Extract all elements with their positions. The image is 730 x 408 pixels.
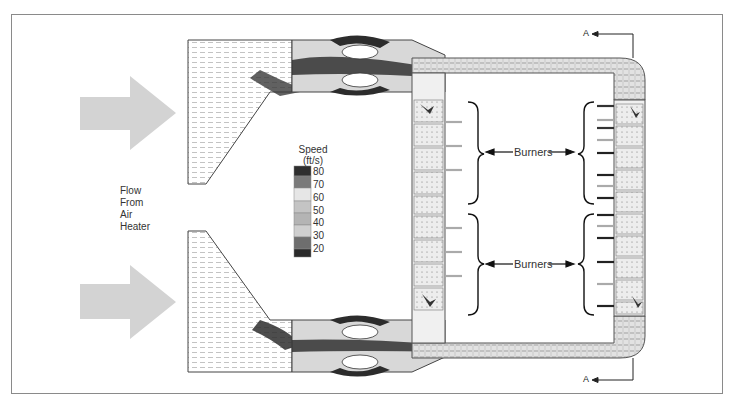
brace-left-upper xyxy=(468,102,484,204)
burners-label-lower: Burners xyxy=(514,258,553,270)
legend-tick-30: 30 xyxy=(313,230,324,241)
legend-tick-80: 80 xyxy=(313,166,324,177)
legend-tick-20: 20 xyxy=(313,243,324,254)
legend-tick-60: 60 xyxy=(313,192,324,203)
section-label-bottom: A xyxy=(583,374,589,384)
brace-right-upper xyxy=(578,102,594,204)
left-burner-wall xyxy=(412,73,445,343)
inlet-label-line-2: From xyxy=(120,197,150,209)
inlet-label-line-3: Air xyxy=(120,209,150,221)
inlet-flow-label: Flow From Air Heater xyxy=(120,185,150,233)
section-label-top: A xyxy=(583,28,589,38)
brace-right-lower xyxy=(578,214,594,315)
inlet-label-line-1: Flow xyxy=(120,185,150,197)
top-crossover-duct xyxy=(412,58,645,100)
inlet-label-line-4: Heater xyxy=(120,221,150,233)
inlet-arrow-bottom xyxy=(80,265,176,339)
speed-legend-bar xyxy=(294,166,311,257)
legend-title-units: (ft/s) xyxy=(283,155,343,166)
legend-tick-40: 40 xyxy=(313,217,324,228)
legend-title-speed: Speed xyxy=(283,144,343,155)
legend-tick-50: 50 xyxy=(313,205,324,216)
section-marker-bottom xyxy=(592,358,633,383)
windbox-flow-diagram xyxy=(0,0,730,408)
brace-left-lower xyxy=(468,214,484,315)
section-marker-top xyxy=(592,32,633,59)
legend-tick-70: 70 xyxy=(313,179,324,190)
burners-label-upper: Burners xyxy=(514,146,553,158)
bottom-crossover-duct xyxy=(412,316,645,358)
right-burner-jets xyxy=(597,106,614,306)
legend-title: Speed (ft/s) xyxy=(283,144,343,166)
inlet-arrow-top xyxy=(80,76,176,150)
right-burner-wall xyxy=(614,100,645,316)
left-burner-jets xyxy=(445,108,462,306)
